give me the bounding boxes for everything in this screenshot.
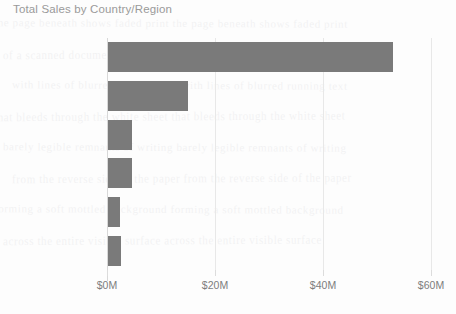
x-axis-tick [431,270,432,276]
bar[interactable] [108,158,132,188]
x-axis-tick-label: $0M [97,279,117,291]
x-axis-tick-label: $20M [202,279,228,291]
bar[interactable] [108,42,393,72]
x-axis-tick-label: $40M [310,279,336,291]
x-gridline [323,38,324,270]
ghost-text-line: the page beneath shows faded print the p… [0,13,348,34]
x-axis-tick [323,270,324,276]
chart-title: Total Sales by Country/Region [13,3,172,15]
bar[interactable] [108,197,120,227]
plot-area: $0M$20M$40M$60MUnited StatesCanadaFrance… [107,38,431,270]
bar[interactable] [108,81,188,111]
x-axis-tick [107,270,108,276]
x-gridline [431,38,432,270]
x-gridline [215,38,216,270]
chart-screenshot: the page beneath shows faded print the p… [0,0,456,314]
bar[interactable] [108,120,132,150]
x-axis-tick-label: $60M [418,279,444,291]
x-axis-tick [215,270,216,276]
bar[interactable] [108,236,121,266]
